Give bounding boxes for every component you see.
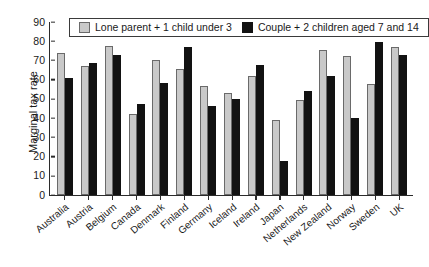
bar-group [101,22,125,195]
y-axis-tick-label: 60 [33,74,50,85]
x-axis-label-slot: Germany [196,200,220,266]
x-axis-label: UK [388,202,405,219]
bar [160,83,168,195]
bar [367,84,375,195]
bar-group [53,22,77,195]
bar [224,93,232,195]
y-axis-tick-label: 30 [33,132,50,143]
bar-group [196,22,220,195]
bar-group [244,22,268,195]
x-axis-label-slot: Norway [339,200,363,266]
bar-groups [50,22,413,195]
bar [57,53,65,195]
bar [272,120,280,195]
bar-group [363,22,387,195]
bar [105,46,113,195]
legend-swatch-icon [242,22,253,33]
x-axis-label-slot: Austria [76,200,100,266]
bar [327,76,335,195]
bar [280,161,288,195]
bar [319,50,327,195]
plot-area: 0102030405060708090 [49,22,413,196]
bar [184,47,192,195]
x-axis-label-slot: UK [387,200,411,266]
y-axis-tick-label: 80 [33,36,50,47]
y-axis-tick-label: 70 [33,55,50,66]
bar [296,100,304,195]
bar [304,91,312,195]
bar [343,56,351,195]
x-axis-label-slot: New Zealand [315,200,339,266]
bar-group [125,22,149,195]
bar [232,99,240,195]
bar-group [220,22,244,195]
y-axis-tick-label: 90 [33,17,50,28]
bar [248,76,256,195]
bar [375,42,383,195]
bar-group [339,22,363,195]
bar-group [268,22,292,195]
bar [152,60,160,195]
x-axis-labels: AustraliaAustriaBelgiumCanadaDenmarkFinl… [49,200,413,266]
y-axis-tick-label: 10 [33,171,50,182]
bar-group [315,22,339,195]
bar [208,106,216,195]
x-axis-label-slot: Belgium [100,200,124,266]
legend-item: Lone parent + 1 child under 3 [79,22,232,33]
bar [113,55,121,195]
bar [176,69,184,195]
y-axis-tick-label: 40 [33,113,50,124]
bar [399,55,407,195]
bar-group [148,22,172,195]
bar [81,66,89,195]
bar-group [292,22,316,195]
bar [351,118,359,195]
legend-label: Lone parent + 1 child under 3 [95,22,232,33]
legend-item: Couple + 2 children aged 7 and 14 [242,22,419,33]
bar-group [172,22,196,195]
bar [391,47,399,195]
bar [200,86,208,195]
legend-label: Couple + 2 children aged 7 and 14 [258,22,419,33]
chart-legend: Lone parent + 1 child under 3Couple + 2 … [69,18,429,37]
bar [256,65,264,195]
bar [65,78,73,195]
x-axis-label-slot: Sweden [363,200,387,266]
bar-group [387,22,411,195]
bar [137,104,145,195]
y-axis-tick-label: 50 [33,94,50,105]
y-axis-tick-label: 20 [33,151,50,162]
bar [89,63,97,195]
bar-group [77,22,101,195]
x-axis-label-slot: Australia [52,200,76,266]
x-axis-label-slot: Denmark [148,200,172,266]
bar [129,114,137,195]
x-axis-label-slot: Iceland [220,200,244,266]
legend-swatch-icon [79,22,90,33]
